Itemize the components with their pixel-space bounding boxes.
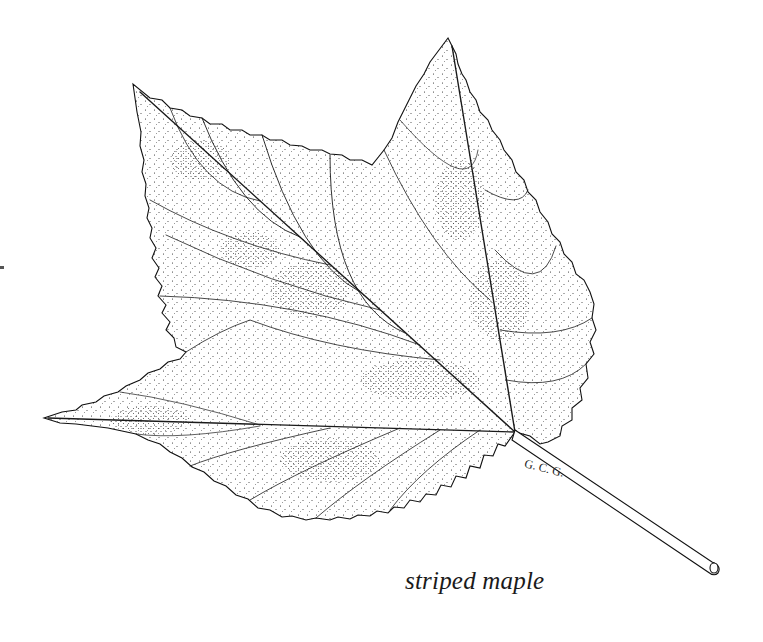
margin-mark bbox=[0, 266, 4, 269]
leaf-caption: striped maple bbox=[405, 567, 544, 595]
leaf-illustration bbox=[0, 0, 763, 642]
leaf-petiole bbox=[512, 430, 719, 575]
